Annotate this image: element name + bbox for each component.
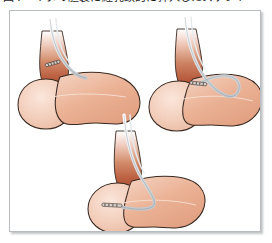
organ-body xyxy=(124,176,205,228)
organ-body xyxy=(55,72,140,125)
figure-caption-body: イヌの胆嚢に経乳頭的に挿入したステント xyxy=(34,0,247,4)
figure-caption-strip: 図4イヌの胆嚢に経乳頭的に挿入したステント xyxy=(0,0,272,9)
panel-2-illustration xyxy=(149,17,260,131)
panel-3-illustration xyxy=(88,115,205,231)
panel-1-illustration xyxy=(18,19,140,129)
figure-frame xyxy=(9,10,261,232)
medical-illustration xyxy=(10,11,260,231)
stent-marker xyxy=(102,203,122,207)
figure-caption: 図4イヌの胆嚢に経乳頭的に挿入したステント xyxy=(3,0,247,4)
figure-caption-number: 図4 xyxy=(3,0,21,4)
